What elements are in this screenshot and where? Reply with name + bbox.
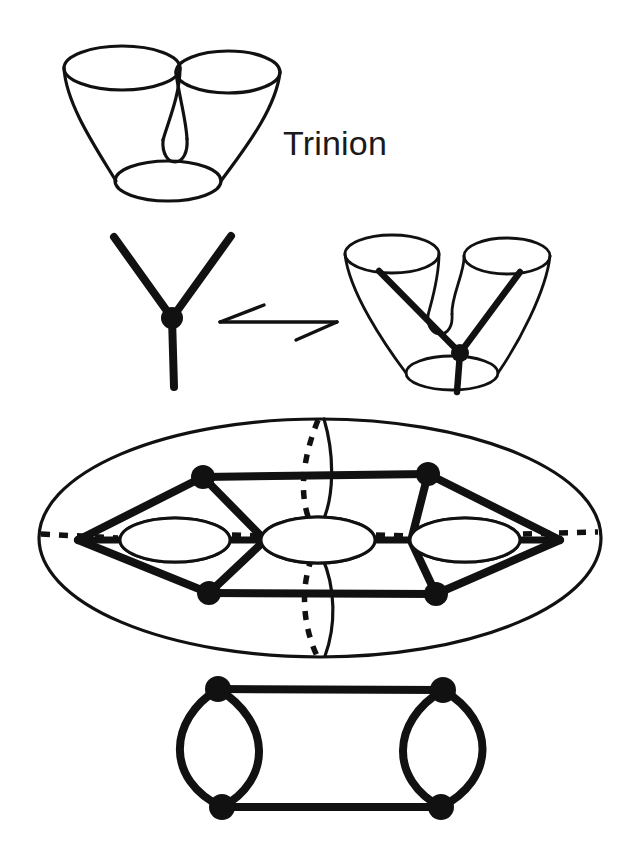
trinion-right-cuff <box>176 51 280 93</box>
trinion-left-cuff <box>64 46 180 90</box>
genus3-vertex-bottom-right <box>424 582 448 606</box>
equator-hidden-right <box>523 532 598 534</box>
genus3-vertex-bottom-left <box>197 581 221 605</box>
abstract-edge-right-inner <box>403 690 443 807</box>
abstract-vertex-bottom-right <box>428 794 454 820</box>
abstract-edge-right-outer <box>441 690 483 807</box>
y-edge-upper-left <box>114 237 172 318</box>
abstract-vertex-bottom-left <box>209 794 235 820</box>
figure-root: Trinion <box>0 0 637 868</box>
trinion-surface <box>64 46 280 201</box>
spine-edge-left <box>379 271 460 353</box>
correspondence-arrow <box>220 305 337 340</box>
spine-trinion-left-cuff <box>345 235 439 273</box>
arrow-head-right <box>296 322 337 340</box>
trinion-outline-right <box>221 72 280 181</box>
abstract-vertex-top-right <box>430 677 456 703</box>
abstract-edge-left-inner <box>218 689 259 807</box>
y-center-vertex-dot <box>161 307 183 329</box>
genus3-hole-left-rim <box>120 518 230 562</box>
abstract-edge-top <box>218 689 443 690</box>
trinion-crotch-curve <box>163 139 187 162</box>
trinion-with-spine <box>345 235 550 392</box>
trinion-label: Trinion <box>283 124 387 163</box>
genus3-hole-center-rim <box>261 517 375 563</box>
spine-trinion-crotch-right <box>452 256 464 314</box>
equator-hidden-mid-2 <box>376 535 410 536</box>
genus3-edge-bottom-left-to-bottom-right <box>209 593 436 594</box>
genus3-edge-top-left-to-top-right <box>203 474 428 477</box>
genus-3-surface <box>39 419 601 657</box>
spine-trinion-right-cuff <box>464 238 550 274</box>
arrow-head-left <box>220 305 264 322</box>
spine-trinion-bottom-cuff <box>406 356 498 390</box>
spine-edge-right <box>460 272 520 353</box>
separating-curve-back-top <box>303 420 318 522</box>
separating-curve-front-bottom <box>322 557 333 656</box>
trivalent-vertex-graph <box>114 236 231 387</box>
separating-curve-back-bottom <box>305 558 317 656</box>
y-edge-upper-right <box>172 236 231 318</box>
genus3-hole-right-rim <box>410 518 520 562</box>
genus3-vertex-top-right <box>416 462 440 486</box>
genus3-vertex-top-left <box>191 465 215 489</box>
abstract-vertex-top-left <box>205 676 231 702</box>
spine-vertex-dot <box>451 344 469 362</box>
abstract-edge-left-outer <box>180 689 222 807</box>
trinion-bottom-cuff <box>115 161 221 201</box>
separating-curve-front-top <box>322 419 332 523</box>
abstract-trivalent-graph <box>180 676 483 820</box>
